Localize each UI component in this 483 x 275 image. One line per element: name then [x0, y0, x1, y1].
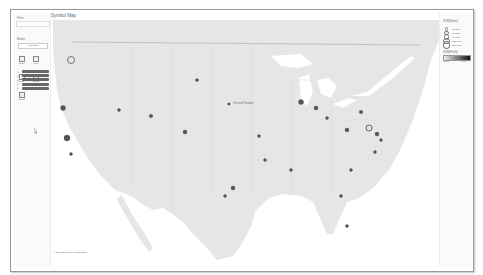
field-pill[interactable]: ◎: [17, 74, 49, 77]
left-control-panel: Filter Marks Automatic Color Size Label …: [14, 13, 51, 266]
filter-label: Filter: [17, 16, 24, 20]
mark-type-dropdown[interactable]: Automatic: [18, 43, 48, 49]
size-label: Size: [34, 62, 39, 65]
pill-body: [22, 74, 49, 77]
size-legend: 30,000 60,000 90,000 120,000 150,000: [443, 27, 470, 47]
color-min-label: -3,700: [443, 60, 450, 62]
color-label: Color: [19, 62, 25, 65]
field-pill[interactable]: ◎: [17, 78, 49, 81]
size-legend-item: 150,000: [443, 43, 470, 47]
dashboard-frame: Filter Marks Automatic Color Size Label …: [10, 9, 474, 272]
color-button[interactable]: Color: [17, 56, 26, 65]
size-value: 90,000: [452, 36, 460, 39]
field-pill[interactable]: ◎: [17, 70, 49, 73]
map-attribution: © OpenStreetMap contributors: [53, 251, 87, 254]
filter-input[interactable]: [16, 21, 50, 27]
marks-label: Marks: [17, 37, 25, 41]
field-pill[interactable]: ◎: [17, 87, 49, 90]
size-value: 150,000: [452, 44, 461, 47]
size-value: 60,000: [452, 32, 460, 35]
field-pill[interactable]: ◎: [17, 83, 49, 86]
size-value: 120,000: [452, 40, 461, 43]
pill-body: [22, 70, 49, 73]
color-legend-title: SUM(Profit): [443, 50, 458, 54]
tooltip-label: Tooltip: [18, 98, 25, 101]
size-value: 30,000: [452, 28, 460, 31]
legend-panel: SUM(Sales) 30,000 60,000 90,000 120,000 …: [439, 13, 472, 266]
pill-body: [22, 83, 49, 86]
pill-body: [22, 78, 49, 81]
color-max-label: 7,300: [461, 60, 467, 62]
tooltip-button[interactable]: Tooltip: [17, 92, 26, 101]
size-button[interactable]: Size: [31, 56, 40, 65]
map-title: Symbol Map: [51, 13, 76, 18]
country-label: United States: [233, 101, 254, 105]
pill-body: [22, 87, 49, 90]
mouse-cursor-icon: [34, 128, 37, 134]
marks-pills: ◎ ◎ ◎ ◎ ◎: [17, 70, 49, 91]
symbol-map[interactable]: United States: [51, 20, 439, 264]
size-legend-title: SUM(Sales): [443, 19, 458, 23]
us-map-graphic: United States: [51, 20, 439, 264]
